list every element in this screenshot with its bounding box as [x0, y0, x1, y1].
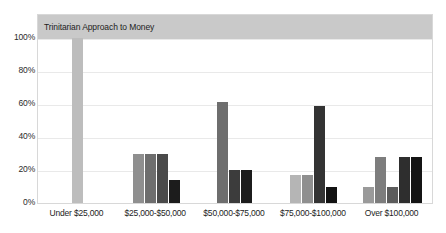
y-axis-tick-label: 100%: [2, 33, 35, 42]
plot-area: Trinitarian Approach to Money: [37, 14, 433, 204]
bar: [399, 157, 410, 203]
bar: [133, 154, 144, 204]
bar: [387, 187, 398, 204]
bar-group: [38, 14, 117, 203]
bar-group: [117, 14, 196, 203]
bar: [411, 157, 422, 203]
bar: [302, 175, 313, 203]
x-axis: Under $25,000$25,000-$50,000$50,000-$75,…: [37, 208, 433, 228]
bar: [72, 38, 83, 203]
y-axis-tick-label: 80%: [2, 66, 35, 75]
y-axis-tick-label: 60%: [2, 99, 35, 108]
bar: [363, 187, 374, 204]
bar: [229, 170, 240, 203]
bar: [157, 154, 168, 204]
bar: [326, 187, 337, 204]
x-axis-tick-label: Over $100,000: [352, 208, 431, 218]
bar: [169, 180, 180, 203]
bar-chart: 100%80%60%40%20%0% Trinitarian Approach …: [0, 0, 446, 233]
x-axis-tick-label: $50,000-$75,000: [195, 208, 274, 218]
x-axis-tick-label: Under $25,000: [37, 208, 116, 218]
bar-group: [274, 14, 353, 203]
x-axis-tick-label: $25,000-$50,000: [116, 208, 195, 218]
bar-group: [196, 14, 275, 203]
x-axis-tick-label: $75,000-$100,000: [273, 208, 352, 218]
bar-group: [353, 14, 432, 203]
bar: [314, 106, 325, 203]
bar: [217, 102, 228, 203]
y-axis-tick-label: 40%: [2, 132, 35, 141]
y-axis-tick-label: 0%: [2, 198, 35, 207]
y-axis-tick-label: 20%: [2, 165, 35, 174]
bar: [375, 157, 386, 203]
bar: [145, 154, 156, 204]
bars-layer: [38, 15, 432, 203]
y-axis: 100%80%60%40%20%0%: [0, 0, 35, 233]
bar: [241, 170, 252, 203]
bar: [290, 175, 301, 203]
